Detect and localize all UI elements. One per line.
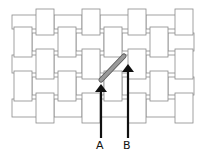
warp-thread	[150, 71, 168, 101]
arrow-label-b: B	[123, 139, 131, 152]
warp-thread	[14, 27, 32, 57]
weft-thread	[100, 99, 130, 117]
warp-thread	[58, 27, 76, 57]
weft-thread	[168, 33, 194, 51]
weft-thread	[76, 33, 104, 51]
warp-thread	[175, 93, 193, 123]
warp-thread	[36, 93, 54, 123]
warp-thread	[128, 93, 146, 123]
weft-thread	[32, 77, 60, 95]
weft-thread	[54, 55, 82, 73]
warp-thread	[82, 93, 100, 123]
weave-diagram	[0, 0, 205, 157]
warp-thread	[36, 49, 54, 79]
warp-thread	[150, 27, 168, 57]
weft-thread	[32, 33, 60, 51]
warp-thread	[82, 49, 100, 79]
warp-thread	[36, 9, 54, 35]
weft-thread	[12, 55, 38, 73]
weft-thread	[168, 77, 194, 95]
warp-thread	[82, 9, 100, 35]
arrow-label-a: A	[96, 139, 104, 152]
warp-thread	[175, 9, 193, 35]
warp-thread	[175, 49, 193, 79]
warp-thread	[104, 27, 122, 57]
warp-thread	[14, 71, 32, 101]
warp-thread	[128, 9, 146, 35]
warp-thread	[128, 49, 146, 79]
weft-thread	[146, 55, 176, 73]
weft-thread	[122, 77, 152, 95]
weft-thread	[12, 99, 38, 117]
weft-thread	[146, 99, 176, 117]
weft-thread	[54, 99, 82, 117]
warp-thread	[58, 71, 76, 101]
weft-thread	[122, 33, 152, 51]
